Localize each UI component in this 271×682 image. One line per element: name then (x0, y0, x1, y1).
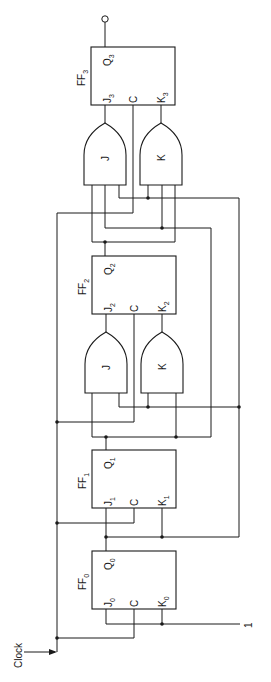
ff1-c-label: C (129, 499, 140, 506)
ff0-label: FF0 (77, 574, 90, 590)
ff2-j-gate: J (85, 332, 127, 393)
svg-text:J: J (100, 156, 111, 161)
ff0-c-label: C (129, 600, 140, 607)
ff2-k-gate: K (141, 332, 183, 393)
counter-circuit-diagram: FF3 Q3 J3 C K3 J K FF2 Q2 J2 C K2 J K F (0, 0, 271, 682)
svg-text:J: J (101, 365, 112, 370)
svg-text:K: K (156, 154, 167, 161)
svg-text:K: K (157, 363, 168, 370)
ff1-label: FF1 (77, 473, 90, 489)
q3-output-terminal (102, 16, 108, 22)
ff3-j-gate: J (84, 123, 126, 185)
flip-flop-ff1: FF1 Q1 J1 C K1 (77, 450, 176, 508)
ff3-c-label: C (128, 96, 139, 103)
constant-one-label: 1 (243, 622, 254, 628)
ff2-c-label: C (129, 305, 140, 312)
flip-flop-ff0: FF0 Q0 J0 C K0 (77, 551, 176, 609)
ff3-k-gate: K (140, 123, 182, 185)
ff2-label: FF2 (77, 279, 90, 295)
flip-flop-ff3: FF3 Q3 J3 C K3 (76, 47, 175, 105)
clock-label: Clock (13, 642, 24, 668)
flip-flop-ff2: FF2 Q2 J2 C K2 (77, 256, 176, 314)
ff3-label: FF3 (76, 70, 89, 86)
